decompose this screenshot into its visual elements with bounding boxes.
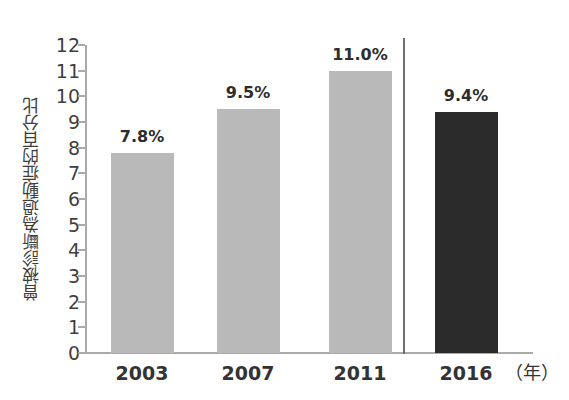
x-tick-label-2016: 2016 [416, 362, 516, 384]
bar-chart: 曾被診斷為過動症的百分比 12 11 10 9 8 7 6 5 4 3 2 1 … [0, 0, 569, 400]
bar-2011 [329, 71, 392, 353]
bar-value-label-2011: 11.0% [310, 47, 410, 63]
bar-value-label-2016: 9.4% [416, 88, 516, 104]
bar-2016 [435, 112, 498, 353]
bar-2007 [217, 109, 280, 353]
x-axis-unit-label: （年） [505, 362, 559, 384]
x-tick-label-2011: 2011 [310, 362, 410, 384]
bar-value-label-2003: 7.8% [92, 129, 192, 145]
bar-value-label-2007: 9.5% [198, 85, 298, 101]
bar-2003 [111, 153, 174, 353]
x-tick-label-2007: 2007 [198, 362, 298, 384]
x-tick-label-2003: 2003 [92, 362, 192, 384]
bars-layer: 7.8%9.5%11.0%9.4% [0, 0, 569, 400]
group-separator-line [403, 38, 405, 354]
